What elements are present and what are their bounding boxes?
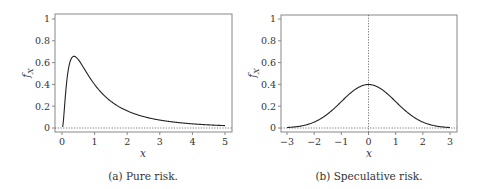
x-tick-label: 4 (189, 136, 195, 147)
x-tick-label: −3 (280, 136, 294, 147)
y-tick-label: 0.8 (261, 35, 276, 46)
plot-frame (55, 14, 232, 132)
y-tick-label: 0.4 (261, 79, 276, 90)
y-tick-label: 0 (44, 122, 50, 133)
x-axis-label: x (366, 147, 372, 159)
x-tick-label: −2 (307, 136, 321, 147)
panel-b-speculative-risk: −3−2−1012300.20.40.60.81fXx(b) Speculati… (246, 13, 457, 182)
x-tick-label: 0 (365, 136, 371, 147)
x-tick-label: 2 (124, 136, 130, 147)
y-tick-label: 1 (44, 13, 50, 24)
subfigure-caption: (b) Speculative risk. (315, 170, 422, 182)
plot-frame (281, 15, 457, 132)
x-tick-label: 2 (420, 136, 426, 147)
y-tick-label: 0 (270, 122, 276, 133)
panel-a-pure-risk: 01234500.20.40.60.81fXx(a) Pure risk. (20, 13, 232, 182)
figure: 01234500.20.40.60.81fXx(a) Pure risk. −3… (0, 0, 481, 189)
y-tick-label: 0.2 (261, 101, 276, 112)
x-tick-label: 1 (92, 136, 98, 147)
y-tick-label: 0.6 (35, 57, 50, 68)
x-tick-label: 3 (447, 136, 453, 147)
x-tick-label: 0 (59, 136, 65, 147)
x-tick-label: 5 (222, 136, 228, 147)
y-tick-label: 0.4 (35, 79, 50, 90)
x-tick-label: 1 (393, 136, 399, 147)
y-tick-label: 1 (270, 13, 276, 24)
subfigure-caption: (a) Pure risk. (108, 170, 178, 182)
y-axis-label: fX (246, 68, 261, 79)
y-tick-label: 0.2 (35, 101, 50, 112)
x-tick-label: −1 (334, 136, 348, 147)
y-tick-label: 0.8 (35, 35, 50, 46)
x-axis-label: x (140, 147, 146, 159)
x-tick-label: 3 (157, 136, 163, 147)
y-tick-label: 0.6 (261, 57, 276, 68)
density-curve (63, 56, 225, 127)
y-axis-label: fX (20, 68, 35, 79)
